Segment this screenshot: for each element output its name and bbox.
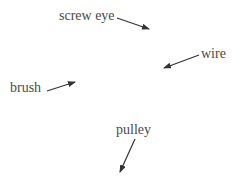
screw-eye-arrow [117,18,149,29]
screw-eye-label: screw eye [59,9,115,23]
brush-arrow [47,82,75,91]
callout-arrows [0,0,239,194]
wire-label: wire [201,47,226,61]
pulley-arrow [120,139,135,172]
wire-arrow [164,55,199,68]
brush-label: brush [10,81,41,95]
pulley-label: pulley [116,123,151,137]
labeled-diagram: screw eye wire brush pulley [0,0,239,194]
